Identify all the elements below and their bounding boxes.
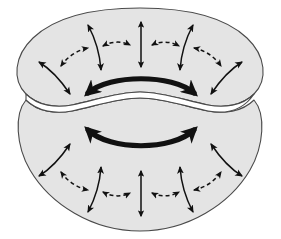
lower-lobe-shape	[18, 98, 262, 231]
torus-diagram-figure	[0, 0, 281, 239]
torus-diagram-canvas	[0, 0, 281, 239]
torus-body-group	[17, 8, 263, 231]
